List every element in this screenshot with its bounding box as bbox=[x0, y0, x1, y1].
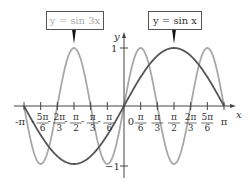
x-tick-label: π bbox=[221, 116, 228, 127]
sine-graph: y 1 −1 x -π5π6-2π3-π2-π3-π6-0π6π3π22π35π… bbox=[0, 0, 250, 185]
svg-text:6: 6 bbox=[204, 123, 210, 133]
svg-text:3: 3 bbox=[154, 123, 160, 133]
sin3x-pointer-icon bbox=[72, 29, 76, 44]
x-tick-label: π6 bbox=[135, 112, 147, 133]
svg-text:-: - bbox=[64, 116, 67, 126]
svg-text:π: π bbox=[90, 112, 96, 122]
x-tick-label: π2- bbox=[64, 112, 82, 133]
y-tick-label-neg1: −1 bbox=[105, 161, 120, 172]
svg-text:π: π bbox=[106, 112, 112, 122]
svg-text:3: 3 bbox=[90, 123, 96, 133]
x-tick-label: π2 bbox=[168, 112, 180, 133]
y-axis-arrow-icon bbox=[122, 32, 126, 38]
svg-text:2: 2 bbox=[73, 123, 79, 133]
svg-text:3: 3 bbox=[56, 123, 62, 133]
x-tick-label: π6- bbox=[98, 112, 116, 133]
x-tick-label: 2π3- bbox=[48, 112, 66, 133]
sin3x-label-box: y = sin 3x bbox=[46, 11, 104, 30]
svg-text:-: - bbox=[48, 116, 51, 126]
svg-text:2π: 2π bbox=[54, 112, 66, 122]
x-tick-label: -π bbox=[15, 116, 25, 127]
x-axis-arrow-icon bbox=[230, 104, 236, 108]
svg-text:6: 6 bbox=[138, 123, 144, 133]
svg-text:-π: -π bbox=[15, 116, 25, 127]
svg-text:3: 3 bbox=[188, 123, 194, 133]
svg-text:-: - bbox=[31, 116, 34, 126]
svg-text:5π: 5π bbox=[37, 112, 49, 122]
svg-text:π: π bbox=[221, 116, 228, 127]
svg-text:π: π bbox=[73, 112, 79, 122]
svg-text:-: - bbox=[81, 116, 84, 126]
svg-text:π: π bbox=[138, 112, 144, 122]
svg-text:5π: 5π bbox=[202, 112, 214, 122]
svg-text:2: 2 bbox=[171, 123, 177, 133]
y-axis-label: y bbox=[113, 31, 120, 42]
x-axis-label: x bbox=[236, 109, 242, 120]
x-tick-label: 5π6 bbox=[201, 112, 213, 133]
sinx-pointer-icon bbox=[172, 29, 176, 44]
svg-text:π: π bbox=[171, 112, 177, 122]
y-tick-label-1: 1 bbox=[111, 43, 117, 54]
svg-text:0: 0 bbox=[128, 116, 134, 127]
svg-text:-: - bbox=[98, 116, 101, 126]
svg-text:6: 6 bbox=[40, 123, 46, 133]
svg-text:π: π bbox=[154, 112, 160, 122]
svg-text:2π: 2π bbox=[185, 112, 197, 122]
svg-text:6: 6 bbox=[106, 123, 112, 133]
x-tick-label: 5π6- bbox=[31, 112, 49, 133]
x-tick-label: 0 bbox=[128, 116, 134, 127]
sinx-label-box: y = sin x bbox=[148, 11, 202, 30]
